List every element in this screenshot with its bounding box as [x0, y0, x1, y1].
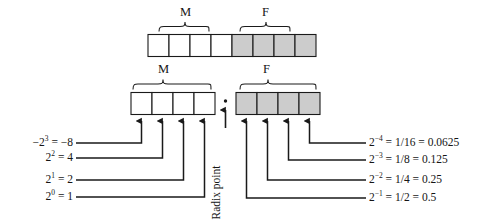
weight-exponent: 0 — [51, 188, 55, 197]
top-brace-label-magnitude: M — [180, 6, 191, 19]
top-brace-label-fraction: F — [262, 6, 269, 19]
weight-label-fraction-bit-1: 2−1 = 1/2 = 0.5 — [369, 192, 436, 204]
weight-label-fraction-bit-2: 2−2 = 1/4 = 0.25 — [369, 174, 442, 186]
weight-exponent: −4 — [375, 134, 383, 143]
connector-fraction-bit-2 — [268, 121, 367, 180]
weight-label-fraction-bit-4: 2−4 = 1/16 = 0.0625 — [369, 137, 459, 149]
bottom-register-fraction-cells — [236, 93, 320, 115]
weight-label-magnitude-bit3: −23 = −8 — [0, 137, 73, 149]
weight-label-magnitude-bit0: 20 = 1 — [0, 191, 73, 203]
radix-point-dot — [224, 99, 227, 102]
weight-value: = 1/16 = 0.0625 — [386, 136, 460, 148]
figure-canvas: M F M F Radix point −23 = −8 22 = 4 21 =… — [0, 0, 494, 221]
fixed-point-format-diagram — [0, 0, 494, 221]
weight-value: = −8 — [51, 136, 73, 148]
radix-point-label: Radix point — [211, 166, 223, 220]
weight-label-magnitude-bit2: 22 = 4 — [0, 152, 73, 164]
weight-label-fraction-bit-3: 2−3 = 1/8 = 0.125 — [369, 154, 448, 166]
weight-value: = 2 — [58, 173, 73, 185]
weight-base: −2 — [33, 136, 45, 148]
weight-exponent: 3 — [45, 134, 49, 143]
weight-exponent: 1 — [51, 171, 55, 180]
weight-exponent: −2 — [375, 171, 383, 180]
weight-value: = 1/8 = 0.125 — [386, 153, 448, 165]
weight-exponent: −1 — [375, 189, 383, 198]
bottom-brace-magnitude — [133, 80, 211, 90]
bottom-brace-label-magnitude: M — [158, 63, 169, 76]
weight-value: = 1 — [58, 190, 73, 202]
connector-fraction-bit-3 — [289, 121, 367, 160]
weight-exponent: 2 — [51, 149, 55, 158]
weight-value: = 1/2 = 0.5 — [386, 191, 437, 203]
weight-exponent: −3 — [375, 151, 383, 160]
bottom-brace-fraction — [240, 80, 316, 90]
top-brace-fraction — [240, 22, 290, 32]
connector-magnitude-bit2 — [76, 121, 163, 158]
weight-label-magnitude-bit1: 21 = 2 — [0, 174, 73, 186]
weight-value: = 4 — [58, 151, 73, 163]
top-register-cells — [148, 35, 316, 57]
weight-value: = 1/4 = 0.25 — [386, 173, 442, 185]
connector-magnitude-bit1 — [76, 121, 184, 180]
connector-magnitude-bit3 — [76, 121, 142, 143]
bottom-brace-label-fraction: F — [263, 63, 270, 76]
bottom-register-magnitude-cells — [131, 93, 215, 115]
top-brace-magnitude — [159, 22, 209, 32]
connector-magnitude-bit0 — [76, 121, 205, 197]
connector-fraction-bit-4 — [310, 121, 367, 143]
